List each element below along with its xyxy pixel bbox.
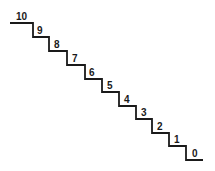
step-label-8: 8 xyxy=(54,39,60,50)
step-label-1: 1 xyxy=(174,134,180,145)
step-label-10: 10 xyxy=(16,11,28,22)
step-label-5: 5 xyxy=(107,80,113,91)
step-label-9: 9 xyxy=(37,25,43,36)
step-label-6: 6 xyxy=(89,67,95,78)
step-label-3: 3 xyxy=(141,107,147,118)
step-label-4: 4 xyxy=(124,94,130,105)
step-label-7: 7 xyxy=(72,53,78,64)
step-label-0: 0 xyxy=(192,148,198,159)
step-label-2: 2 xyxy=(157,121,163,132)
staircase-diagram: 10 9 8 7 6 5 4 3 2 1 0 xyxy=(0,0,215,171)
